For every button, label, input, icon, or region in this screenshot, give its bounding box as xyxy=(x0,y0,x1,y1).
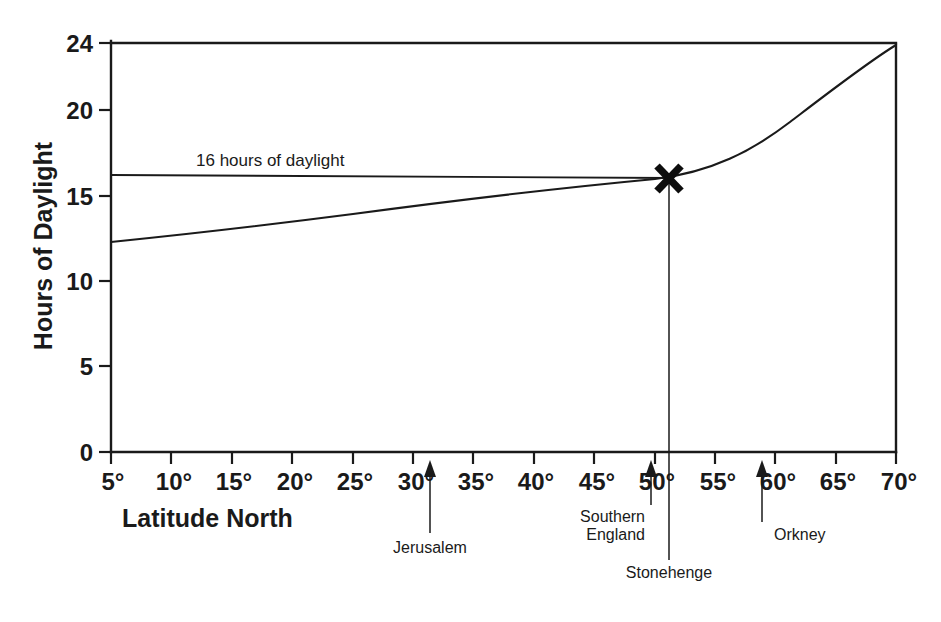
x-tick-label-65: 65° xyxy=(820,468,856,495)
x-tick-label-70: 70° xyxy=(881,468,917,495)
orkney-label: Orkney xyxy=(774,526,826,543)
x-tick-label-45: 45° xyxy=(579,468,615,495)
daylight-curve xyxy=(111,45,896,242)
y-tick-label-15: 15 xyxy=(66,183,93,210)
x-tick-label-35: 35° xyxy=(458,468,494,495)
x-tick-label-55: 55° xyxy=(700,468,736,495)
chart-canvas: 0 5 10 15 20 24 Hours of Daylight xyxy=(0,0,941,622)
y-tick-label-24: 24 xyxy=(66,30,93,57)
y-tick-label-10: 10 xyxy=(66,268,93,295)
reference-line-group: 16 hours of daylight xyxy=(111,151,672,178)
daylight-latitude-chart: 0 5 10 15 20 24 Hours of Daylight xyxy=(0,0,941,622)
y-tick-label-20: 20 xyxy=(66,97,93,124)
y-axis-ticks xyxy=(99,43,111,452)
x-tick-label-40: 40° xyxy=(518,468,554,495)
southern-england-label-line1: Southern xyxy=(580,508,645,525)
annotation-stonehenge: Stonehenge xyxy=(626,564,712,581)
x-tick-label-25: 25° xyxy=(337,468,373,495)
x-tick-label-15: 15° xyxy=(216,468,252,495)
reference-line-label: 16 hours of daylight xyxy=(196,151,345,170)
x-axis-ticks xyxy=(111,452,896,464)
y-axis-title: Hours of Daylight xyxy=(29,141,57,350)
axes-group xyxy=(111,41,896,452)
x-tick-label-10: 10° xyxy=(156,468,192,495)
southern-england-label-line2: England xyxy=(586,526,645,543)
x-axis-title: Latitude North xyxy=(122,504,293,532)
y-tick-label-0: 0 xyxy=(80,439,93,466)
y-axis-tick-labels: 0 5 10 15 20 24 xyxy=(66,30,93,466)
sixteen-hour-reference-line xyxy=(111,175,672,178)
jerusalem-label: Jerusalem xyxy=(393,539,467,556)
x-tick-label-5: 5° xyxy=(102,468,125,495)
stonehenge-label: Stonehenge xyxy=(626,564,712,581)
y-tick-label-5: 5 xyxy=(80,353,93,380)
x-tick-label-20: 20° xyxy=(277,468,313,495)
x-axis-tick-labels: 5° 10° 15° 20° 25° 30° 35° 40° 45° 50° 5… xyxy=(102,468,918,495)
